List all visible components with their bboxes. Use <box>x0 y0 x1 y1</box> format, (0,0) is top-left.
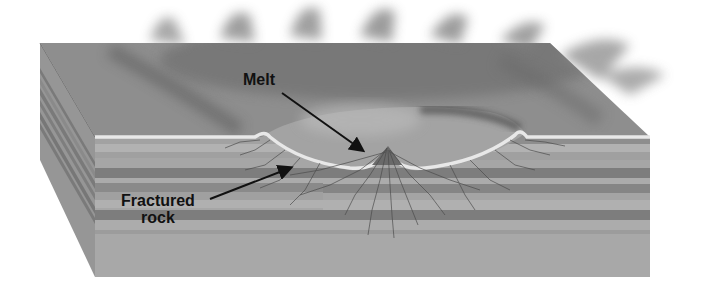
melt-label: Melt <box>243 71 275 88</box>
crater-block-illustration <box>0 0 720 297</box>
fractured-rock-label-line1: Fractured <box>108 192 208 209</box>
fractured-rock-label: Fractured rock <box>108 192 208 226</box>
impact-crater-diagram: Melt Fractured rock <box>0 0 720 297</box>
fractured-rock-label-line2: rock <box>108 209 208 226</box>
